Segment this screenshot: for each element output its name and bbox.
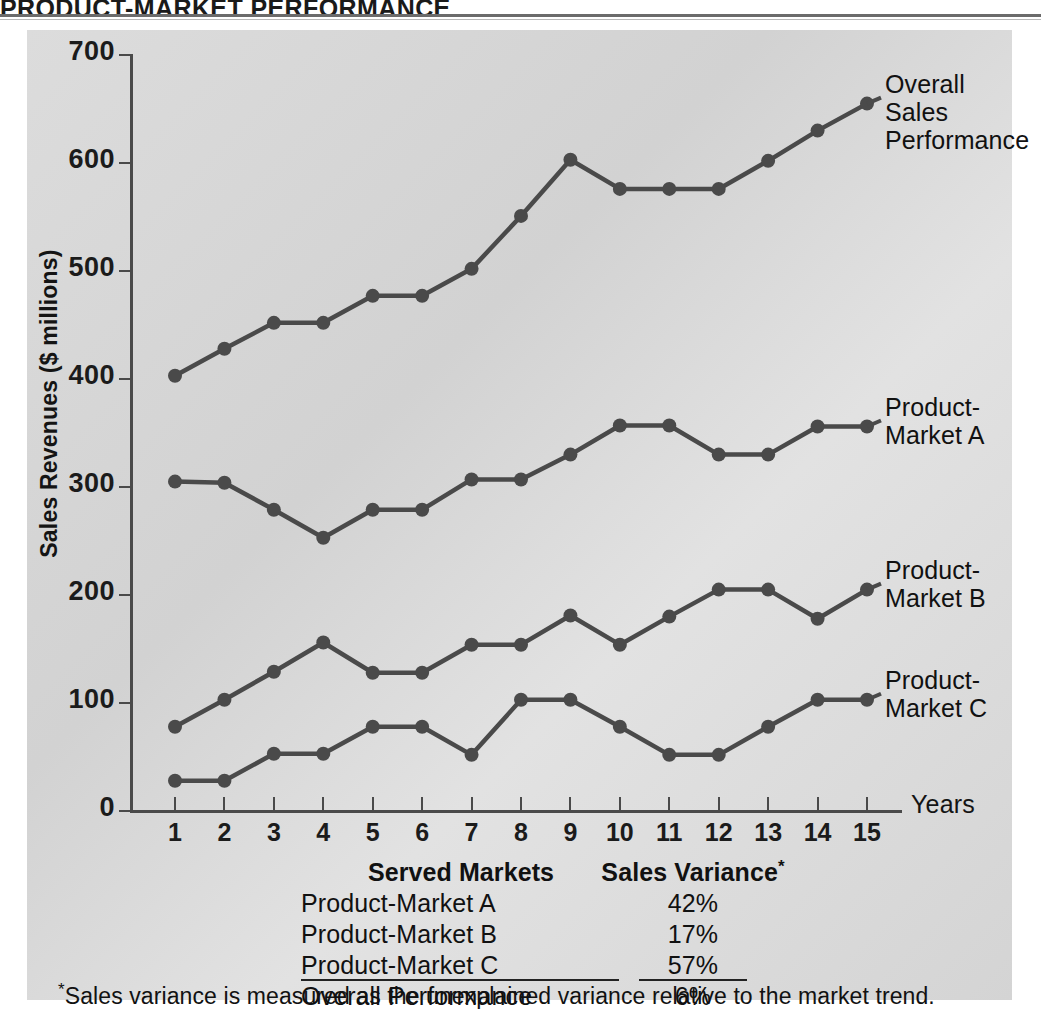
data-point: [761, 154, 775, 168]
data-point: [366, 666, 380, 680]
data-point: [415, 666, 429, 680]
table-cell-market: Product-Market B: [301, 920, 631, 949]
table-cell-variance: 42%: [593, 889, 793, 918]
data-point: [811, 693, 825, 707]
data-point: [514, 472, 528, 486]
data-point: [563, 693, 577, 707]
data-point: [316, 747, 330, 761]
data-point: [366, 720, 380, 734]
table-cell-market: Product-Market A: [301, 889, 631, 918]
data-point: [217, 693, 231, 707]
data-point: [267, 747, 281, 761]
data-point: [465, 262, 479, 276]
data-point: [316, 636, 330, 650]
series-label-2: Product- Market A: [885, 393, 984, 449]
footnote: *Sales variance is measured as the unexp…: [58, 983, 988, 1010]
series-line: [175, 700, 867, 781]
data-point: [267, 503, 281, 517]
footnote-text: Sales variance is measured as the unexpl…: [65, 983, 935, 1009]
series-3: [168, 583, 881, 734]
data-point: [267, 665, 281, 679]
data-point: [761, 720, 775, 734]
table-header-sales-variance: Sales Variance*: [593, 858, 793, 887]
data-point: [415, 720, 429, 734]
data-point: [366, 289, 380, 303]
series-4: [168, 693, 881, 788]
table-row: Product-Market B 17%: [27, 920, 1012, 951]
data-point: [712, 583, 726, 597]
data-point: [168, 369, 182, 383]
data-point: [514, 638, 528, 652]
table-header-served-markets: Served Markets: [311, 858, 611, 887]
table-row: Product-Market C 57%: [27, 951, 1012, 982]
data-point: [168, 475, 182, 489]
data-point: [712, 448, 726, 462]
figure-panel: 0100200300400500600700 12345678910111213…: [27, 30, 1012, 1000]
running-head: PRODUCT-MARKET PERFORMANCE: [0, 0, 640, 14]
data-point: [613, 182, 627, 196]
data-point: [217, 476, 231, 490]
data-point: [613, 720, 627, 734]
data-point: [316, 531, 330, 545]
data-point: [168, 720, 182, 734]
footnote-marker-icon: *: [778, 857, 785, 876]
data-point: [563, 153, 577, 167]
data-point: [366, 503, 380, 517]
data-point: [761, 583, 775, 597]
data-point: [465, 638, 479, 652]
data-point: [712, 182, 726, 196]
table-header-row: Served Markets Sales Variance*: [27, 858, 1012, 889]
data-point: [662, 748, 676, 762]
footnote-star-icon: *: [58, 980, 65, 999]
data-point: [316, 316, 330, 330]
header-rule-thin: [0, 19, 1041, 20]
data-point: [514, 693, 528, 707]
data-point: [168, 774, 182, 788]
data-point: [613, 638, 627, 652]
data-point: [662, 182, 676, 196]
data-point: [415, 289, 429, 303]
plot-lines: [27, 30, 1012, 830]
series-label-4: Product- Market C: [885, 666, 987, 722]
data-point: [217, 342, 231, 356]
data-point: [563, 448, 577, 462]
data-point: [514, 209, 528, 223]
data-point: [415, 503, 429, 517]
data-point: [712, 748, 726, 762]
data-point: [811, 124, 825, 138]
data-point: [761, 448, 775, 462]
series-line: [175, 104, 867, 376]
data-point: [267, 316, 281, 330]
table-row: Product-Market A 42%: [27, 889, 1012, 920]
data-point: [217, 774, 231, 788]
series-label-1: Overall Sales Performance: [885, 70, 1029, 154]
header-rule: [0, 14, 1041, 17]
table-cell-variance: 17%: [593, 920, 793, 949]
data-point: [465, 748, 479, 762]
data-point: [465, 472, 479, 486]
table-subtotal-rule-right: [639, 979, 747, 981]
data-point: [811, 612, 825, 626]
series-label-3: Product- Market B: [885, 556, 986, 612]
table-header-sales-variance-text: Sales Variance: [601, 858, 778, 886]
table-subtotal-rule-left: [301, 979, 619, 981]
data-point: [563, 609, 577, 623]
data-point: [662, 418, 676, 432]
series-2: [168, 418, 881, 544]
data-point: [811, 420, 825, 434]
series-1: [168, 97, 881, 383]
data-point: [613, 418, 627, 432]
table-cell-market: Product-Market C: [301, 951, 631, 980]
table-cell-variance: 57%: [593, 951, 793, 980]
data-point: [662, 610, 676, 624]
